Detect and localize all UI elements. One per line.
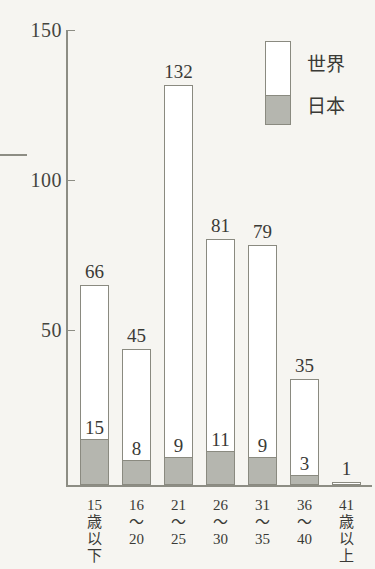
x-axis-category-label: 21〜25 [164,497,193,548]
category-label-line: 41 [332,497,361,514]
category-label-line: 15 [80,497,109,514]
legend-label-world: 世界 [307,55,345,74]
legend-swatch-japan [266,95,290,124]
legend-label-japan: 日本 [307,97,345,116]
category-label-line: 〜 [164,514,193,531]
bar-chart: 150 100 50 6615458132981117993531 15歳以下1… [0,0,375,569]
category-label-line: 〜 [290,514,319,531]
category-label-line: 26 [206,497,235,514]
x-axis-category-label: 16〜20 [122,497,151,548]
category-labels-layer: 15歳以下16〜2021〜2526〜3031〜3536〜4041歳以上 [0,0,375,569]
category-label-line: 40 [290,531,319,548]
category-label-line: 下 [80,548,109,565]
category-label-line: 25 [164,531,193,548]
x-axis-category-label: 15歳以下 [80,497,109,565]
legend-swatch-world [265,41,291,125]
category-label-line: 〜 [122,514,151,531]
category-label-line: 20 [122,531,151,548]
category-label-line: 〜 [206,514,235,531]
category-label-line: 〜 [248,514,277,531]
x-axis-category-label: 26〜30 [206,497,235,548]
category-label-line: 以 [80,531,109,548]
category-label-line: 歳 [80,514,109,531]
category-label-line: 16 [122,497,151,514]
category-label-line: 上 [332,548,361,565]
category-label-line: 21 [164,497,193,514]
category-label-line: 以 [332,531,361,548]
category-label-line: 31 [248,497,277,514]
x-axis-category-label: 36〜40 [290,497,319,548]
category-label-line: 35 [248,531,277,548]
category-label-line: 36 [290,497,319,514]
category-label-line: 30 [206,531,235,548]
category-label-line: 歳 [332,514,361,531]
x-axis-category-label: 31〜35 [248,497,277,548]
x-axis-category-label: 41歳以上 [332,497,361,565]
